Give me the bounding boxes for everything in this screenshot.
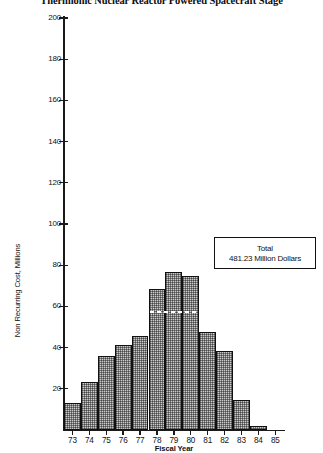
x-tick-73 bbox=[72, 430, 73, 435]
bar-77 bbox=[132, 336, 149, 430]
x-tick-81 bbox=[207, 430, 208, 435]
x-tick-82 bbox=[224, 430, 225, 435]
bar-83 bbox=[233, 400, 250, 430]
x-tick-77 bbox=[139, 430, 140, 435]
marker-line bbox=[150, 311, 198, 313]
x-tick-75 bbox=[106, 430, 107, 435]
x-tick-83 bbox=[241, 430, 242, 435]
y-axis-label: Non Recurring Cost, Millions bbox=[13, 221, 22, 361]
bar-84 bbox=[250, 426, 267, 430]
bar-80 bbox=[182, 276, 199, 431]
bar-82 bbox=[216, 351, 233, 430]
y-tick-label-180: 180 bbox=[21, 54, 61, 63]
x-tick-84 bbox=[258, 430, 259, 435]
bar-75 bbox=[98, 356, 115, 430]
total-annotation-box: Total 481.23 Million Dollars bbox=[214, 237, 316, 269]
x-tick-85 bbox=[275, 430, 276, 435]
y-tick-label-100: 100 bbox=[21, 219, 61, 228]
chart-root: Thermionic Nuclear Reactor Powered Space… bbox=[0, 0, 323, 453]
y-tick-label-200: 200 bbox=[21, 13, 61, 22]
total-label: Total bbox=[257, 244, 273, 253]
x-axis-label: Fiscal Year bbox=[63, 444, 285, 453]
y-tick-label-160: 160 bbox=[21, 95, 61, 104]
x-tick-76 bbox=[122, 430, 123, 435]
bar-76 bbox=[115, 345, 132, 430]
y-tick-label-120: 120 bbox=[21, 178, 61, 187]
bar-81 bbox=[199, 332, 216, 430]
bar-73 bbox=[64, 403, 81, 430]
x-tick-78 bbox=[156, 430, 157, 435]
bar-79 bbox=[165, 272, 182, 430]
y-tick-label-60: 60 bbox=[21, 301, 61, 310]
total-value: 481.23 Million Dollars bbox=[229, 254, 301, 263]
x-tick-74 bbox=[89, 430, 90, 435]
x-tick-79 bbox=[173, 430, 174, 435]
bar-74 bbox=[81, 382, 98, 430]
plot-area: 20406080100120140160180200 7374757677787… bbox=[0, 0, 323, 453]
y-tick-label-140: 140 bbox=[21, 137, 61, 146]
y-tick-label-40: 40 bbox=[21, 343, 61, 352]
y-tick-label-80: 80 bbox=[21, 260, 61, 269]
y-tick-label-20: 20 bbox=[21, 384, 61, 393]
x-tick-80 bbox=[190, 430, 191, 435]
